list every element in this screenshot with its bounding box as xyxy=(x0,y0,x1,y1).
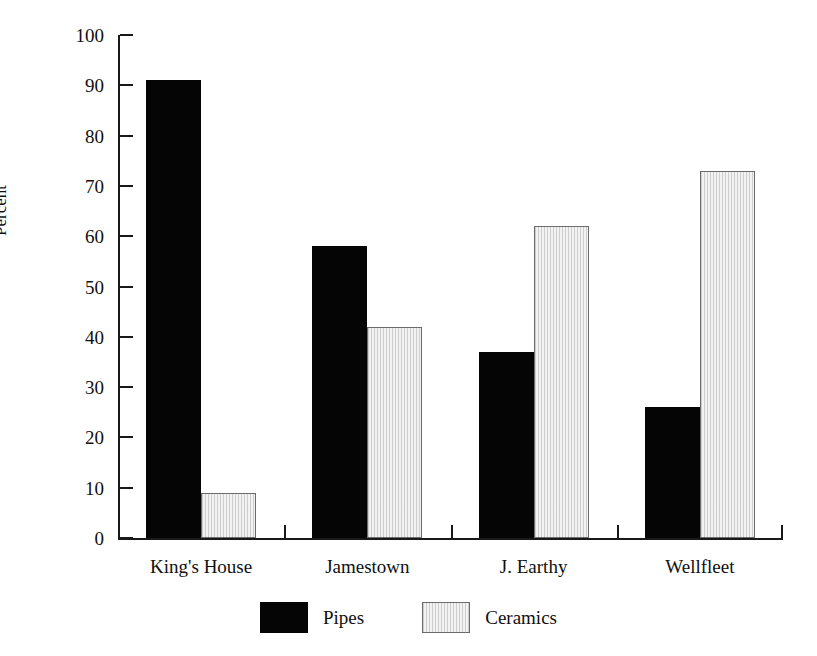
x-axis-category-label: Wellfleet xyxy=(617,556,783,578)
x-axis-line xyxy=(118,538,783,540)
y-axis-tick-label: 90 xyxy=(85,76,104,95)
legend-item-ceramics: Ceramics xyxy=(422,602,557,633)
x-axis-category-label: J. Earthy xyxy=(451,556,617,578)
chart-figure: Percent 0102030405060708090100 King's Ho… xyxy=(0,0,817,656)
bar-pipes-2 xyxy=(479,352,534,538)
x-axis-tick xyxy=(451,525,453,538)
y-axis-tick-label: 100 xyxy=(76,26,105,45)
y-axis-tick xyxy=(120,286,133,288)
plot-area: 0102030405060708090100 xyxy=(118,35,783,538)
y-axis-tick-label: 50 xyxy=(85,277,104,296)
bar-pipes-0 xyxy=(146,80,201,538)
black-filled-swatch xyxy=(260,602,308,633)
y-axis-tick xyxy=(120,386,133,388)
bar-ceramics-0 xyxy=(201,493,256,538)
y-axis-tick xyxy=(120,336,133,338)
y-axis-tick xyxy=(120,34,133,36)
y-axis-tick xyxy=(120,84,133,86)
x-axis-tick xyxy=(284,525,286,538)
y-axis-label: Percent xyxy=(0,185,9,236)
y-axis-tick xyxy=(120,185,133,187)
legend-label: Pipes xyxy=(323,608,364,627)
y-axis-tick-label: 30 xyxy=(85,378,104,397)
x-axis-category-label: King's House xyxy=(118,556,284,578)
y-axis-tick xyxy=(120,235,133,237)
x-axis-tick xyxy=(781,525,783,538)
y-axis-tick-label: 70 xyxy=(85,176,104,195)
legend-item-pipes: Pipes xyxy=(260,602,364,633)
bar-pipes-3 xyxy=(645,407,700,538)
y-axis-tick-label: 0 xyxy=(95,529,105,548)
bar-ceramics-3 xyxy=(700,171,755,538)
y-axis-tick-label: 60 xyxy=(85,227,104,246)
y-axis-tick-label: 20 xyxy=(85,428,104,447)
bar-pipes-1 xyxy=(312,246,367,538)
y-axis-tick-label: 10 xyxy=(85,478,104,497)
y-axis-tick xyxy=(120,135,133,137)
chart-legend: PipesCeramics xyxy=(0,602,817,633)
y-axis-tick-label: 80 xyxy=(85,126,104,145)
x-axis-category-label: Jamestown xyxy=(284,556,450,578)
y-axis-tick-label: 40 xyxy=(85,327,104,346)
bar-ceramics-2 xyxy=(534,226,589,538)
legend-label: Ceramics xyxy=(485,608,557,627)
x-axis-tick xyxy=(617,525,619,538)
y-axis-tick xyxy=(120,537,133,539)
y-axis-tick xyxy=(120,487,133,489)
y-axis-tick xyxy=(120,436,133,438)
light-hatched-swatch xyxy=(422,602,470,633)
bar-ceramics-1 xyxy=(367,327,422,538)
